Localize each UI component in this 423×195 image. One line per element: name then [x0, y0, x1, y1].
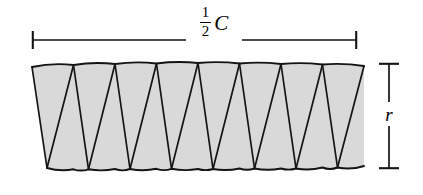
circumference-symbol: C: [214, 13, 228, 34]
triangle-strip: [32, 62, 364, 171]
geometry-figure: 1 2 C r: [0, 0, 423, 195]
width-label: 1 2 C: [186, 2, 242, 42]
one-half-fraction: 1 2: [200, 5, 212, 39]
strip-body: [32, 62, 364, 170]
fraction-denominator: 2: [200, 24, 212, 39]
fraction-numerator: 1: [200, 5, 212, 20]
height-label: r: [380, 102, 398, 126]
radius-symbol: r: [385, 105, 392, 124]
